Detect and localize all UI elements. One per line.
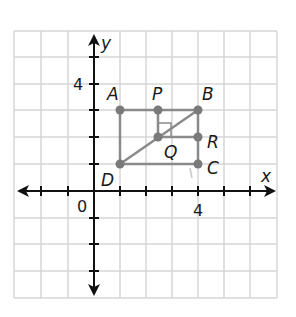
point-A (116, 106, 125, 115)
y-axis-label: y (100, 33, 112, 53)
label-A: A (106, 84, 119, 104)
point-C (194, 160, 203, 169)
point-R (194, 133, 203, 142)
x-axis-label: x (260, 166, 272, 186)
coordinate-plane: y x 4 0 4 A P B R Q C D (0, 0, 296, 317)
label-P: P (152, 84, 163, 104)
label-C: C (207, 158, 219, 178)
x-tick-label-4: 4 (193, 201, 203, 220)
y-tick-label-4: 4 (73, 75, 83, 94)
label-R: R (207, 132, 219, 152)
label-B: B (202, 84, 214, 104)
stray-mark (190, 168, 192, 178)
label-D: D (101, 170, 114, 190)
origin-label: 0 (77, 197, 87, 216)
point-P (154, 106, 163, 115)
point-D (116, 160, 125, 169)
label-Q: Q (164, 142, 177, 162)
point-B (194, 106, 203, 115)
point-Q (154, 133, 163, 142)
